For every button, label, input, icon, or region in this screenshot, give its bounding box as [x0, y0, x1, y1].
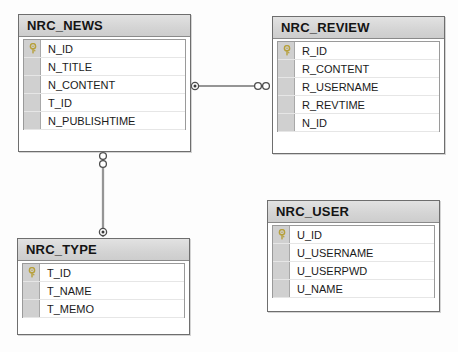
field-table: R_IDR_CONTENTR_USERNAMER_REVTIMEN_ID	[277, 41, 440, 132]
field-gutter	[23, 282, 40, 299]
relationship-news-type[interactable]	[99, 153, 106, 237]
cardinality-filled-dot-core	[102, 231, 105, 234]
field-row[interactable]: R_REVTIME	[278, 96, 439, 114]
field-gutter	[273, 244, 290, 261]
cardinality-circle-inner	[100, 161, 107, 168]
field-gutter	[278, 78, 295, 95]
primary-key-indicator	[23, 264, 40, 281]
field-row[interactable]: R_CONTENT	[278, 60, 439, 78]
field-name: R_REVTIME	[295, 97, 439, 113]
entity-field-list: R_IDR_CONTENTR_USERNAMER_REVTIMEN_ID	[273, 39, 444, 154]
entity-title: NRC_REVIEW	[273, 17, 444, 39]
field-gutter	[273, 280, 290, 297]
field-name: N_ID	[41, 41, 185, 57]
field-gutter	[24, 94, 41, 111]
field-name: N_ID	[295, 115, 439, 131]
field-row-primary-key[interactable]: R_ID	[278, 42, 439, 60]
primary-key-indicator	[278, 42, 295, 59]
field-row-primary-key[interactable]: T_ID	[23, 264, 184, 282]
field-table: T_IDT_NAMET_MEMO	[22, 263, 185, 318]
entity-field-list: U_IDU_USERNAMEU_USERPWDU_NAME	[268, 223, 439, 312]
field-gutter	[23, 300, 40, 317]
field-row[interactable]: T_MEMO	[23, 300, 184, 318]
field-gutter	[278, 96, 295, 113]
entity-table-nrc-review[interactable]: NRC_REVIEWR_IDR_CONTENTR_USERNAMER_REVTI…	[272, 16, 445, 154]
entity-table-nrc-type[interactable]: NRC_TYPET_IDT_NAMET_MEMO	[17, 238, 190, 335]
field-gutter	[24, 58, 41, 75]
primary-key-indicator	[24, 40, 41, 57]
cardinality-filled-dot	[99, 228, 106, 235]
field-name: U_NAME	[290, 281, 434, 297]
field-name: N_CONTENT	[41, 77, 185, 93]
field-table: U_IDU_USERNAMEU_USERPWDU_NAME	[272, 225, 435, 298]
field-row[interactable]: U_USERPWD	[273, 262, 434, 280]
field-gutter	[24, 76, 41, 93]
field-name: N_TITLE	[41, 59, 185, 75]
field-row-primary-key[interactable]: N_ID	[24, 40, 185, 58]
field-name: R_ID	[295, 43, 439, 59]
primary-key-indicator	[273, 226, 290, 243]
entity-title: NRC_NEWS	[19, 15, 190, 37]
relationship-news-review[interactable]	[191, 82, 270, 89]
field-row[interactable]: T_ID	[24, 94, 185, 112]
field-name: R_USERNAME	[295, 79, 439, 95]
field-name: T_NAME	[40, 283, 184, 299]
entity-field-list: T_IDT_NAMET_MEMO	[18, 261, 189, 335]
field-table: N_IDN_TITLEN_CONTENTT_IDN_PUBLISHTIME	[23, 39, 186, 130]
cardinality-circle-inner	[263, 83, 270, 90]
field-name: U_ID	[290, 227, 434, 243]
field-gutter	[273, 262, 290, 279]
field-name: T_ID	[41, 95, 185, 111]
entity-title: NRC_TYPE	[18, 239, 189, 261]
field-row[interactable]: N_TITLE	[24, 58, 185, 76]
entity-title: NRC_USER	[268, 201, 439, 223]
entity-table-nrc-user[interactable]: NRC_USERU_IDU_USERNAMEU_USERPWDU_NAME	[267, 200, 440, 312]
field-name: R_CONTENT	[295, 61, 439, 77]
er-diagram-canvas: NRC_NEWSN_IDN_TITLEN_CONTENTT_IDN_PUBLIS…	[0, 0, 458, 352]
field-row[interactable]: U_USERNAME	[273, 244, 434, 262]
field-name: N_PUBLISHTIME	[41, 113, 185, 129]
field-row[interactable]: U_NAME	[273, 280, 434, 298]
field-name: U_USERNAME	[290, 245, 434, 261]
key-icon	[282, 45, 292, 56]
field-row[interactable]: N_CONTENT	[24, 76, 185, 94]
cardinality-circle-outer	[255, 83, 262, 90]
field-row[interactable]: T_NAME	[23, 282, 184, 300]
field-row[interactable]: N_PUBLISHTIME	[24, 112, 185, 130]
cardinality-filled-dot-core	[194, 85, 197, 88]
cardinality-circle-outer	[100, 153, 107, 160]
field-row-primary-key[interactable]: U_ID	[273, 226, 434, 244]
cardinality-filled-dot	[191, 82, 198, 89]
field-row[interactable]: N_ID	[278, 114, 439, 132]
key-icon	[27, 267, 37, 278]
field-gutter	[278, 60, 295, 77]
field-name: T_ID	[40, 265, 184, 281]
entity-field-list: N_IDN_TITLEN_CONTENTT_IDN_PUBLISHTIME	[19, 37, 190, 152]
key-icon	[28, 43, 38, 54]
field-gutter	[278, 114, 295, 131]
field-gutter	[24, 112, 41, 129]
field-name: T_MEMO	[40, 301, 184, 317]
entity-table-nrc-news[interactable]: NRC_NEWSN_IDN_TITLEN_CONTENTT_IDN_PUBLIS…	[18, 14, 191, 152]
key-icon	[277, 229, 287, 240]
field-name: U_USERPWD	[290, 263, 434, 279]
field-row[interactable]: R_USERNAME	[278, 78, 439, 96]
